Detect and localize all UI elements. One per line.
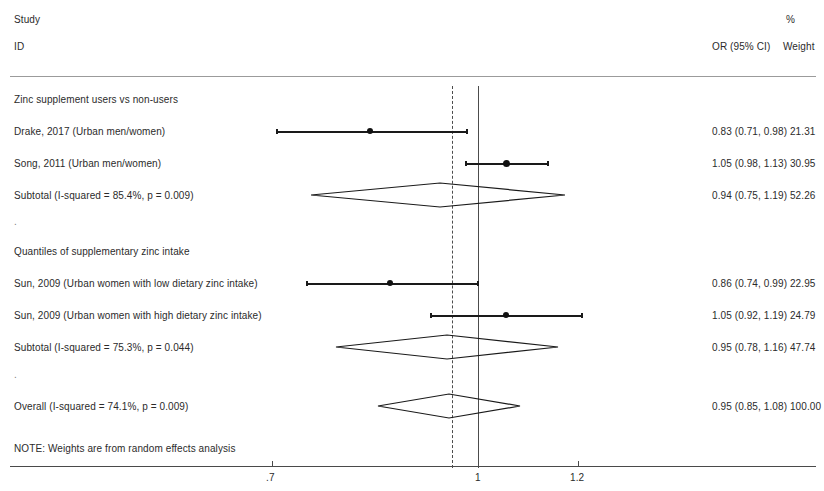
effect-marker-drake-2017 bbox=[367, 128, 373, 134]
row-spacer-dot: . bbox=[14, 216, 17, 227]
column-header-percent: % bbox=[786, 14, 795, 26]
confidence-interval-cap-left bbox=[306, 281, 308, 286]
x-axis-tick-label-1: 1 bbox=[475, 472, 481, 484]
effect-estimate-drake-2017: 0.83 (0.71, 0.98) 21.31 bbox=[712, 126, 816, 138]
study-label-sun-2009-high: Sun, 2009 (Urban women with high dietary… bbox=[14, 310, 262, 322]
confidence-interval-cap-left bbox=[465, 161, 467, 166]
confidence-interval-cap-left bbox=[430, 313, 432, 318]
random-effects-note: NOTE: Weights are from random effects an… bbox=[14, 443, 236, 455]
confidence-interval-cap-left bbox=[276, 129, 278, 134]
study-label-drake-2017: Drake, 2017 (Urban men/women) bbox=[14, 126, 165, 138]
column-header-id: ID bbox=[14, 41, 24, 53]
group-heading-quantiles-supplementary-zinc: Quantiles of supplementary zinc intake bbox=[14, 246, 190, 258]
overall-diamond bbox=[372, 392, 526, 420]
effect-estimate-sun-2009-high: 1.05 (0.92, 1.19) 24.79 bbox=[712, 310, 816, 322]
effect-estimate-overall: 0.95 (0.85, 1.08) 100.00 bbox=[712, 401, 821, 413]
effect-marker-song-2011 bbox=[503, 160, 510, 167]
confidence-interval-cap-right bbox=[581, 313, 583, 318]
effect-marker-sun-2009-low bbox=[387, 280, 393, 286]
confidence-interval-cap-right bbox=[547, 161, 549, 166]
row-spacer-dot: . bbox=[14, 369, 17, 380]
confidence-interval-cap-right bbox=[466, 129, 468, 134]
x-axis-tick-1 bbox=[478, 461, 479, 467]
header-divider bbox=[10, 76, 816, 77]
x-axis-tick-0.7 bbox=[272, 461, 273, 467]
column-header-study: Study bbox=[14, 14, 40, 26]
subtotal-diamond-group-1 bbox=[305, 181, 571, 209]
effect-estimate-sun-2009-low: 0.86 (0.74, 0.99) 22.95 bbox=[712, 278, 816, 290]
subtotal-label-group-1: Subtotal (I-squared = 85.4%, p = 0.009) bbox=[14, 190, 194, 202]
confidence-interval-cap-right bbox=[477, 281, 479, 286]
column-header-or-ci: OR (95% CI) bbox=[712, 41, 770, 53]
column-header-weight: Weight bbox=[783, 41, 815, 53]
x-axis-line bbox=[10, 466, 816, 467]
x-axis-tick-1.2 bbox=[578, 461, 579, 467]
forest-plot-figure: Study ID % OR (95% CI) Weight Zinc suppl… bbox=[0, 0, 824, 491]
effect-estimate-subtotal-group-1: 0.94 (0.75, 1.19) 52.26 bbox=[712, 190, 816, 202]
effect-estimate-subtotal-group-2: 0.95 (0.78, 1.16) 47.74 bbox=[712, 342, 816, 354]
group-heading-zinc-supplement-users: Zinc supplement users vs non-users bbox=[14, 94, 178, 106]
subtotal-label-group-2: Subtotal (I-squared = 75.3%, p = 0.044) bbox=[14, 342, 194, 354]
effect-marker-sun-2009-high bbox=[503, 312, 509, 318]
overall-label: Overall (I-squared = 74.1%, p = 0.009) bbox=[14, 401, 188, 413]
x-axis-tick-label-0.7: .7 bbox=[266, 472, 275, 484]
subtotal-diamond-group-2 bbox=[330, 333, 564, 361]
study-label-song-2011: Song, 2011 (Urban men/women) bbox=[14, 158, 161, 170]
x-axis-tick-label-1.2: 1.2 bbox=[570, 472, 584, 484]
effect-estimate-song-2011: 1.05 (0.98, 1.13) 30.95 bbox=[712, 158, 816, 170]
study-label-sun-2009-low: Sun, 2009 (Urban women with low dietary … bbox=[14, 278, 258, 290]
